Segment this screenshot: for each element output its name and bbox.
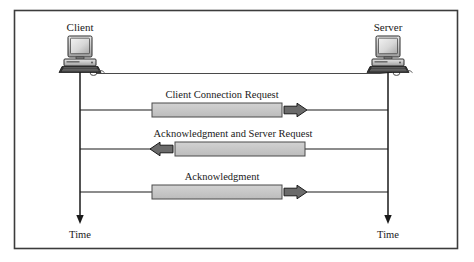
- server-time-label: Time: [377, 229, 399, 240]
- message-2-bar: [175, 142, 305, 156]
- client-label: Client: [67, 21, 94, 33]
- figure-container: Client Server Client Connection: [0, 0, 474, 262]
- message-2-label: Acknowledgment and Server Request: [154, 128, 313, 139]
- message-1-bar: [152, 103, 282, 117]
- client-time-label: Time: [69, 229, 91, 240]
- message-3-bar: [152, 185, 282, 199]
- server-label: Server: [374, 21, 403, 33]
- message-3-label: Acknowledgment: [185, 171, 260, 182]
- sequence-diagram: Client Server Client Connection: [0, 0, 474, 262]
- message-1-label: Client Connection Request: [165, 89, 278, 100]
